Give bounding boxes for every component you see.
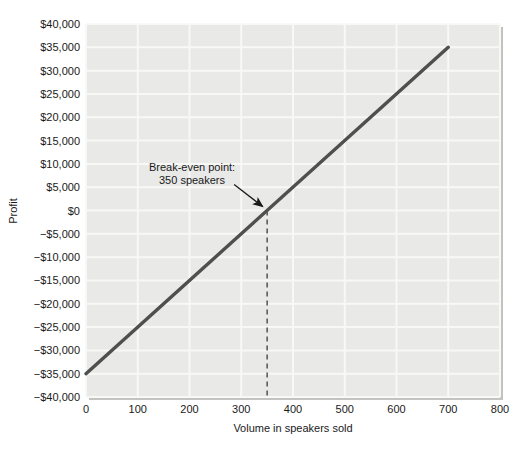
x-tick-label: 300 — [221, 402, 261, 416]
annotation-line2: 350 speakers — [142, 174, 242, 187]
break-even-chart: Profit Volume in speakers sold Break-eve… — [0, 0, 524, 452]
y-tick-label: $25,000 — [40, 87, 80, 101]
x-tick-label: 0 — [66, 402, 106, 416]
y-tick-label: −$30,000 — [34, 343, 80, 357]
y-tick-label: −$15,000 — [34, 273, 80, 287]
x-tick-label: 100 — [118, 402, 158, 416]
y-tick-label: $35,000 — [40, 40, 80, 54]
y-tick-label: $40,000 — [40, 17, 80, 31]
y-tick-label: −$20,000 — [34, 297, 80, 311]
y-tick-label: $5,000 — [46, 180, 80, 194]
x-axis-title: Volume in speakers sold — [166, 422, 420, 434]
y-tick-label: $30,000 — [40, 64, 80, 78]
x-tick-label: 800 — [480, 402, 520, 416]
x-tick-label: 500 — [325, 402, 365, 416]
y-axis-title: Profit — [7, 190, 21, 232]
y-tick-label: $10,000 — [40, 157, 80, 171]
x-tick-label: 200 — [170, 402, 210, 416]
y-tick-label: −$5,000 — [40, 227, 80, 241]
annotation-line1: Break-even point: — [142, 161, 242, 174]
x-tick-label: 600 — [377, 402, 417, 416]
x-tick-label: 400 — [273, 402, 313, 416]
y-tick-label: $15,000 — [40, 134, 80, 148]
y-tick-label: −$25,000 — [34, 320, 80, 334]
y-tick-label: $20,000 — [40, 110, 80, 124]
break-even-annotation: Break-even point: 350 speakers — [142, 161, 242, 187]
y-tick-label: −$35,000 — [34, 367, 80, 381]
y-tick-label: $0 — [68, 204, 80, 218]
x-tick-label: 700 — [428, 402, 468, 416]
y-tick-label: −$10,000 — [34, 250, 80, 264]
